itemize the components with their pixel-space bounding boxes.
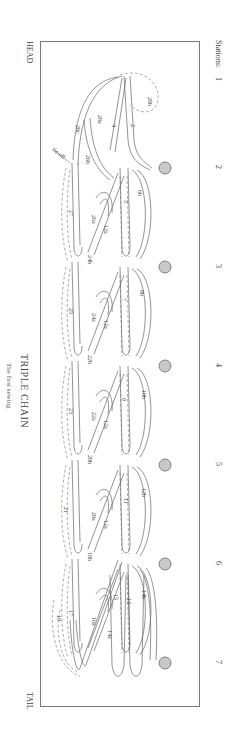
- step-label: 12a: [103, 520, 109, 529]
- tie-off-marker: tie-off: [51, 146, 70, 163]
- step-label: 16a: [91, 617, 97, 626]
- step-label: 15: [113, 594, 119, 600]
- step-label: 10b: [141, 390, 147, 399]
- step-label: 28c: [75, 125, 81, 134]
- step-label: 20a: [91, 512, 97, 521]
- step-label: 17: [68, 610, 74, 616]
- step-label: 26a: [91, 215, 97, 224]
- step-label: 12a: [103, 225, 109, 234]
- step-label: 12b: [141, 488, 147, 497]
- step-label: 19: [56, 615, 62, 621]
- step-label: 24b: [87, 255, 93, 264]
- step-label: 11: [123, 498, 129, 504]
- station-hole: [159, 657, 171, 669]
- step-label: 24a: [91, 313, 97, 322]
- step-label: 26b: [85, 155, 91, 164]
- station-hole: [159, 558, 171, 570]
- step-label: 9: [121, 398, 127, 401]
- step-label: 28b: [147, 97, 153, 106]
- station-hole: [159, 360, 171, 372]
- step-label: 7: [121, 298, 127, 301]
- thread-strands: [70, 76, 157, 676]
- step-label: 27: [68, 210, 74, 216]
- step-label: 18b: [87, 552, 93, 561]
- step-label: 14b: [141, 590, 147, 599]
- step-label: 14a: [107, 630, 113, 639]
- sewing-diagram: tie-off 28b2428a28c26b6b52726a12a24b8b72…: [0, 0, 233, 743]
- step-label: 13: [126, 598, 132, 604]
- svg-text:tie-off: tie-off: [51, 146, 66, 160]
- step-label: 4: [111, 124, 117, 127]
- step-label: 6b: [137, 190, 143, 196]
- dashed-thread-paths: [52, 73, 158, 676]
- step-label: 2: [130, 124, 136, 127]
- step-label: 21: [63, 507, 69, 513]
- step-label: 12a: [103, 320, 109, 329]
- step-label: 23: [68, 408, 74, 414]
- step-label: 25: [68, 308, 74, 314]
- station-holes: [159, 162, 171, 669]
- step-labels: 28b2428a28c26b6b52726a12a24b8b72524a12a2…: [56, 97, 153, 639]
- station-hole: [159, 162, 171, 174]
- step-label: 22a: [91, 412, 97, 421]
- step-label: 22b: [87, 355, 93, 364]
- station-hole: [159, 459, 171, 471]
- step-label: 5: [123, 200, 129, 203]
- step-label: 8b: [139, 290, 145, 296]
- step-label: 20b: [87, 455, 93, 464]
- step-label: 12a: [103, 420, 109, 429]
- station-hole: [159, 261, 171, 273]
- step-label: 28a: [97, 115, 103, 124]
